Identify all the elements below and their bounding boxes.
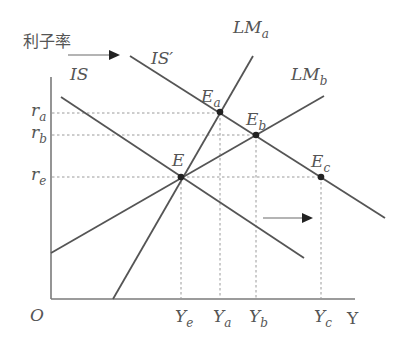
lm-b-label: LMb — [290, 64, 327, 88]
re-label: re — [31, 164, 46, 188]
is-label: IS — [69, 64, 88, 84]
origin-label: O — [30, 305, 44, 325]
shift-arrow-bottom — [263, 213, 313, 223]
yb-label: Yb — [249, 306, 268, 330]
point-e-label: E — [171, 150, 185, 170]
arrowhead-icon — [109, 50, 120, 60]
point-e — [178, 174, 185, 181]
y-axis-label: 利子率 — [23, 32, 71, 51]
ye-label: Ye — [175, 306, 193, 330]
yc-label: Yc — [314, 306, 332, 330]
x-axis-label: Y — [346, 308, 359, 328]
lm-a-label: LMa — [232, 17, 269, 41]
arrowhead-icon — [302, 213, 313, 223]
point-eb-label: Eb — [245, 109, 266, 133]
is-prime-label: IS′ — [150, 48, 173, 68]
ya-label: Ya — [213, 306, 231, 330]
shift-arrow-top — [68, 50, 120, 60]
ra-label: ra — [31, 100, 46, 124]
rb-label: rb — [31, 122, 47, 146]
is-lm-diagram: 利子率 O Y IS IS′ LMa LMb E Ea Eb Ec ra rb … — [0, 0, 414, 354]
lm-b-curve — [51, 96, 324, 253]
